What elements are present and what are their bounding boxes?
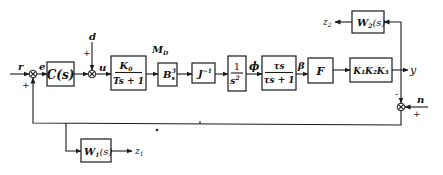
feedback-line [33,78,401,125]
signal-z1: z1 [134,146,144,157]
actuator-den: Ts + 1 [113,76,144,86]
block-diagram: C(s) K0 Ts + 1 Bs3 J−1 1 s2 τs τs + 1 F … [0,0,443,175]
summing-junction-2 [88,70,96,78]
signal-e: e [39,61,45,72]
Bs-label: Bs3 [162,67,176,81]
controller-label: C(s) [47,68,75,82]
signal-n: n [417,94,424,105]
sign-sum3-n: + [413,109,421,119]
signal-y: y [409,64,417,77]
F-label: F [316,65,326,78]
sign-sum3-y: - [395,89,398,99]
signal-u: u [99,62,106,73]
signal-MD: MD [151,44,169,56]
signal-d: d [89,31,96,42]
signal-z2: z2 [322,17,332,28]
lead-den: τs + 1 [263,75,294,85]
signal-beta: β [297,60,305,71]
W1-feed-line [66,123,81,151]
sign-sum2-d: + [83,48,91,58]
signal-phi: ϕ [249,60,260,73]
lead-num: τs [273,61,284,71]
gain-label: K₁K₂K₃ [352,66,388,76]
signal-r: r [18,61,24,72]
summing-junction-1 [29,70,37,78]
stray-dot [156,129,159,132]
sign-sum1-feedback: + [22,80,30,90]
integrator-num: 1 [234,61,240,72]
summing-junction-3 [397,103,405,111]
